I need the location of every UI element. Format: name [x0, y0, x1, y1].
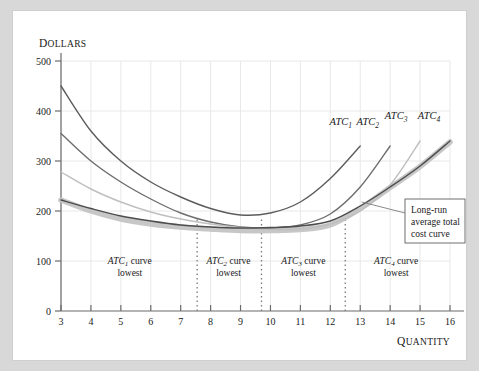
x-tick-label: 4 — [88, 316, 93, 327]
x-tick-labels: 345678910111213141516 — [59, 316, 456, 327]
x-tick-label: 12 — [325, 316, 335, 327]
y-axis-title: DOLLARS — [39, 37, 86, 49]
x-tick-label: 10 — [265, 316, 275, 327]
region-atc3: ATC3 curvelowest — [280, 256, 325, 278]
x-tick-label: 16 — [445, 316, 455, 327]
chart-page: 0100200300400500 345678910111213141516 A… — [0, 0, 479, 371]
x-tick-label: 13 — [355, 316, 365, 327]
y-tick-label: 400 — [36, 106, 51, 117]
region-atc1: ATC1 curvelowest — [107, 256, 152, 278]
y-tick-labels: 0100200300400500 — [36, 56, 51, 317]
x-tick-label: 8 — [208, 316, 213, 327]
figure-card: 0100200300400500 345678910111213141516 A… — [12, 10, 467, 361]
x-tick-label: 11 — [296, 316, 306, 327]
x-tick-label: 9 — [238, 316, 243, 327]
x-tick-label: 7 — [178, 316, 183, 327]
x-tick-label: 15 — [415, 316, 425, 327]
y-tick-label: 500 — [36, 56, 51, 67]
curve-label-ATC1: ATC1 — [328, 116, 352, 130]
curve-labels: ATC1ATC2ATC3ATC4 — [328, 110, 440, 131]
curve-label-ATC2: ATC2 — [355, 116, 379, 130]
x-tick-label: 14 — [385, 316, 395, 327]
x-tick-label: 6 — [148, 316, 153, 327]
region-atc2: ATC2 curvelowest — [206, 256, 251, 278]
x-tick-label: 5 — [118, 316, 123, 327]
atc-curves-chart: 0100200300400500 345678910111213141516 A… — [13, 11, 468, 362]
y-tick-label: 100 — [36, 256, 51, 267]
y-tick-label: 300 — [36, 156, 51, 167]
y-tick-label: 0 — [46, 306, 51, 317]
plot-area: 0100200300400500 345678910111213141516 A… — [13, 11, 468, 362]
y-tick-label: 200 — [36, 206, 51, 217]
region-atc4: ATC4 curvelowest — [373, 256, 418, 278]
x-tick-label: 3 — [59, 316, 64, 327]
region-labels: ATC1 curvelowestATC2 curvelowestATC3 cur… — [107, 256, 418, 278]
atc-curves — [61, 86, 450, 230]
x-axis-title: QUANTITY — [397, 335, 450, 347]
callout-group: Long-runaverage totalcost curve — [362, 199, 465, 243]
curve-label-ATC3: ATC3 — [384, 110, 408, 124]
